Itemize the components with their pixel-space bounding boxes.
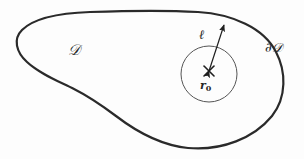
figure-canvas [0,0,304,159]
center-cross-icon [204,66,214,76]
radius-label: ℓ [199,28,204,41]
math-figure: 𝒟 ∂𝒟 ℓ r0 [0,0,304,159]
small-circle [181,46,237,102]
radius-arrow [209,25,224,71]
boundary-label: ∂𝒟 [265,41,282,54]
domain-outline [17,11,284,149]
point-label: r0 [200,80,211,92]
domain-label: 𝒟 [68,43,80,58]
point-label-subscript: 0 [206,83,212,93]
